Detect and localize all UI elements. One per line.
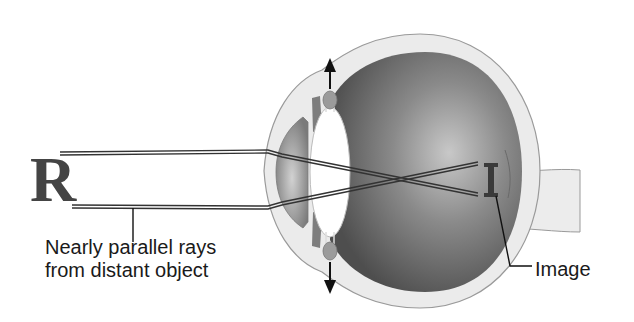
rays-caption: Nearly parallel rays from distant object (45, 236, 216, 282)
ciliary-body-lower (323, 242, 337, 260)
object-letter-r: R (30, 144, 77, 215)
ciliary-body-upper (323, 91, 337, 109)
rays-caption-line2: from distant object (45, 259, 216, 282)
lens (310, 107, 350, 237)
rays-caption-line1: Nearly parallel rays (45, 236, 216, 259)
image-caption: Image (535, 258, 591, 281)
